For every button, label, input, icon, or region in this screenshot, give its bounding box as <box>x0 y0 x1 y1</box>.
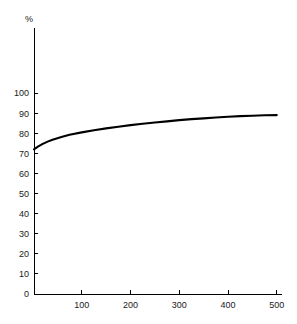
y-tick-label: 40 <box>19 209 29 219</box>
x-tick-label: 100 <box>74 300 89 310</box>
y-axis-unit-label: % <box>25 14 33 24</box>
y-tick-label: 90 <box>19 109 29 119</box>
y-tick-label: 80 <box>19 129 29 139</box>
y-tick-marks <box>34 93 38 294</box>
x-tick-labels: 100200300400500 <box>74 300 284 310</box>
x-tick-marks <box>82 290 277 294</box>
y-tick-label: 100 <box>14 88 29 98</box>
y-tick-label: 20 <box>19 249 29 259</box>
x-tick-label: 400 <box>220 300 235 310</box>
x-tick-label: 200 <box>123 300 138 310</box>
y-tick-label: 0 <box>24 289 29 299</box>
y-tick-label: 10 <box>19 269 29 279</box>
y-tick-label: 70 <box>19 149 29 159</box>
x-tick-label: 500 <box>269 300 284 310</box>
y-tick-label: 50 <box>19 189 29 199</box>
x-tick-label: 300 <box>172 300 187 310</box>
y-tick-labels: 0102030405060708090100 <box>14 88 29 299</box>
chart-container: 0102030405060708090100 100200300400500 % <box>0 0 297 324</box>
data-series-curve <box>34 115 277 149</box>
y-tick-label: 30 <box>19 229 29 239</box>
line-chart: 0102030405060708090100 100200300400500 % <box>0 0 297 324</box>
y-tick-label: 60 <box>19 169 29 179</box>
